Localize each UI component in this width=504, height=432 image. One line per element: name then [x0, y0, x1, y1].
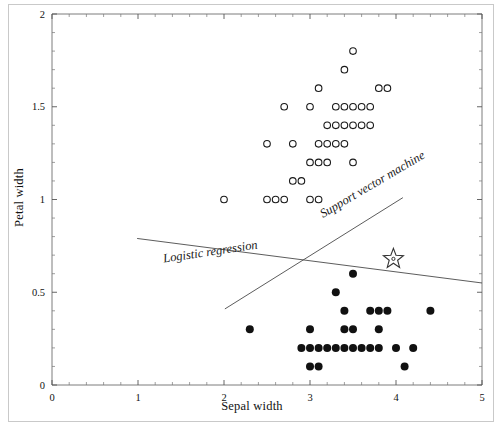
data-point-filled: [358, 344, 366, 352]
data-point-filled: [349, 344, 357, 352]
data-point-open: [350, 103, 357, 110]
data-point-open: [324, 159, 331, 166]
data-point-filled: [383, 307, 391, 315]
data-point-open: [315, 159, 322, 166]
data-point-open: [290, 178, 297, 185]
data-point-filled: [323, 344, 331, 352]
data-point-open: [384, 85, 391, 92]
data-point-open: [324, 122, 331, 129]
data-point-filled: [375, 344, 383, 352]
query-point-center: [392, 257, 395, 260]
data-point-open: [358, 122, 365, 129]
data-point-open: [333, 141, 340, 148]
data-point-filled: [306, 344, 314, 352]
data-point-filled: [375, 325, 383, 333]
data-point-open: [324, 141, 331, 148]
data-point-filled: [366, 344, 374, 352]
data-point-open: [350, 159, 357, 166]
boundary-label: Support vector machine: [317, 148, 427, 221]
data-point-filled: [332, 288, 340, 296]
data-point-filled: [340, 325, 348, 333]
data-point-open: [376, 85, 383, 92]
data-point-open: [315, 141, 322, 148]
data-point-filled: [366, 307, 374, 315]
data-point-open: [333, 122, 340, 129]
boundary-label: Logistic regression: [161, 238, 258, 266]
data-point-open: [272, 196, 279, 203]
data-point-open: [281, 103, 288, 110]
plot-canvas: 01234500.511.52 Logistic regressionSuppo…: [0, 0, 504, 432]
data-point-filled: [332, 344, 340, 352]
data-point-open: [307, 159, 314, 166]
data-point-filled: [349, 325, 357, 333]
svg-text:2: 2: [40, 9, 45, 20]
data-point-open: [350, 48, 357, 55]
svg-text:1.5: 1.5: [32, 101, 45, 112]
data-point-filled: [409, 344, 417, 352]
data-point-filled: [340, 307, 348, 315]
data-point-open: [315, 85, 322, 92]
data-point-filled: [297, 344, 305, 352]
data-point-filled: [340, 344, 348, 352]
data-point-open: [358, 103, 365, 110]
x-axis-label: Sepal width: [0, 399, 504, 414]
data-point-open: [290, 141, 297, 148]
data-point-open: [341, 141, 348, 148]
data-point-open: [367, 103, 374, 110]
data-point-open: [264, 196, 271, 203]
data-point-open: [350, 122, 357, 129]
data-point-filled: [306, 362, 314, 370]
data-point-filled: [375, 307, 383, 315]
data-point-open: [315, 196, 322, 203]
data-point-open: [341, 66, 348, 73]
svg-text:0.5: 0.5: [32, 287, 45, 298]
data-point-open: [367, 122, 374, 129]
y-axis-label: Petal width: [12, 143, 27, 253]
scatter-plot-figure: 01234500.511.52 Logistic regressionSuppo…: [0, 0, 504, 432]
data-point-open: [307, 196, 314, 203]
data-point-open: [307, 103, 314, 110]
data-point-filled: [426, 307, 434, 315]
svg-text:1: 1: [40, 194, 45, 205]
data-point-filled: [315, 362, 323, 370]
data-point-filled: [401, 362, 409, 370]
data-point-open: [341, 122, 348, 129]
data-point-filled: [349, 270, 357, 278]
data-point-open: [264, 141, 271, 148]
data-point-open: [281, 196, 288, 203]
data-point-open: [333, 103, 340, 110]
query-point-star: [383, 248, 403, 267]
data-point-filled: [246, 325, 254, 333]
data-point-filled: [392, 344, 400, 352]
data-point-open: [298, 178, 305, 185]
svg-text:0: 0: [40, 380, 45, 391]
data-point-filled: [306, 325, 314, 333]
data-point-open: [221, 196, 228, 203]
data-point-filled: [315, 344, 323, 352]
axes-group: 01234500.511.52: [32, 9, 485, 404]
data-point-open: [341, 103, 348, 110]
